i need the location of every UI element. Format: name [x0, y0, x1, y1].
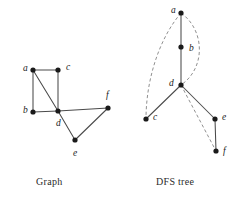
dfs-label-b: b — [189, 43, 194, 53]
dfs-tree-caption: DFS tree — [156, 176, 194, 187]
graph-label-c: c — [66, 62, 71, 72]
dfs-node-d — [178, 82, 183, 87]
dfs-label-d: d — [169, 78, 174, 88]
graph-panel-edges — [33, 70, 108, 140]
dfs-node-e — [212, 116, 217, 121]
graph-edge-d-f — [58, 108, 108, 111]
graph-label-b: b — [23, 105, 28, 115]
graph-node-a — [30, 67, 35, 72]
graph-node-d — [55, 108, 60, 113]
graph-label-d: d — [56, 118, 61, 128]
dfs-label-c: c — [153, 112, 158, 122]
dfs-tree-edge-d-c — [146, 85, 181, 119]
graph-edge-b-d — [33, 111, 58, 112]
dfs-back-edge-d-f — [181, 85, 216, 151]
dfs-node-f — [213, 148, 218, 153]
graph-node-f — [105, 105, 110, 110]
graph-node-c — [55, 67, 60, 72]
figure-canvas: a b c d e f a — [0, 0, 240, 203]
dfs-node-b — [178, 44, 183, 49]
graph-edge-a-d — [33, 70, 58, 111]
graph-node-b — [30, 109, 35, 114]
dfs-tree-edge-d-e — [181, 85, 215, 119]
dfs-figure: a b c d e f a — [0, 0, 240, 203]
dfs-node-c — [143, 116, 148, 121]
graph-label-f: f — [106, 90, 110, 100]
graph-edge-e-f — [75, 108, 108, 140]
dfs-label-f: f — [223, 146, 227, 156]
dfs-label-e: e — [222, 112, 226, 122]
dfs-node-a — [178, 10, 183, 15]
dfs-tree-edge-e-f — [215, 119, 216, 151]
graph-label-e: e — [73, 148, 77, 158]
dfs-label-a: a — [171, 5, 176, 15]
dfs-back-edge-a-c — [146, 13, 181, 119]
graph-node-e — [72, 137, 77, 142]
graph-caption: Graph — [36, 176, 63, 187]
graph-label-a: a — [23, 63, 28, 73]
